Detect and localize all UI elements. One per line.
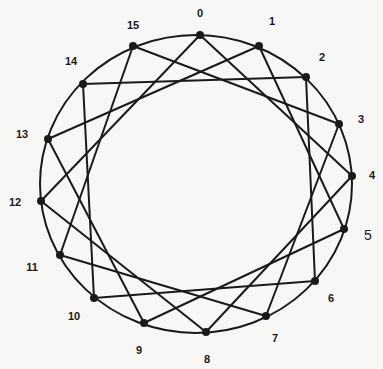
node-0 — [196, 31, 204, 39]
node-label-6: 6 — [328, 292, 334, 304]
node-label-10: 10 — [68, 310, 80, 322]
edge-10-14 — [83, 84, 94, 298]
node-label-14: 14 — [65, 55, 78, 67]
node-label-2: 2 — [319, 51, 325, 63]
node-label-0: 0 — [197, 7, 203, 19]
node-10 — [90, 294, 98, 302]
node-label-13: 13 — [16, 128, 28, 140]
node-label-11: 11 — [26, 261, 38, 273]
node-3 — [335, 120, 343, 128]
node-13 — [44, 135, 52, 143]
node-label-7: 7 — [272, 332, 278, 344]
edge-14-2 — [83, 77, 306, 84]
node-8 — [202, 328, 210, 336]
node-5 — [340, 225, 348, 233]
node-1 — [255, 42, 263, 50]
node-15 — [129, 42, 137, 50]
node-4 — [348, 172, 356, 180]
node-11 — [56, 251, 64, 259]
node-9 — [140, 319, 148, 327]
node-14 — [79, 80, 87, 88]
node-label-3: 3 — [358, 113, 364, 125]
node-label-12: 12 — [9, 196, 21, 208]
node-label-9: 9 — [136, 344, 142, 356]
edge-11-15 — [60, 46, 133, 255]
node-label-15: 15 — [127, 19, 139, 31]
node-label-8: 8 — [204, 353, 210, 365]
node-6 — [311, 277, 319, 285]
node-label-1: 1 — [269, 15, 275, 27]
node-7 — [262, 312, 270, 320]
node-12 — [37, 197, 45, 205]
edge-2-6 — [306, 77, 315, 281]
node-labels: 0123456789101112131415 — [9, 7, 376, 365]
node-2 — [302, 73, 310, 81]
edge-3-7 — [266, 124, 339, 316]
circulant-graph-diagram: 0123456789101112131415 — [0, 0, 383, 369]
edge-7-11 — [60, 255, 266, 316]
node-label-4: 4 — [369, 169, 376, 181]
node-label-5: 5 — [364, 227, 372, 243]
edge-15-3 — [133, 46, 339, 124]
edge-13-1 — [48, 46, 259, 139]
